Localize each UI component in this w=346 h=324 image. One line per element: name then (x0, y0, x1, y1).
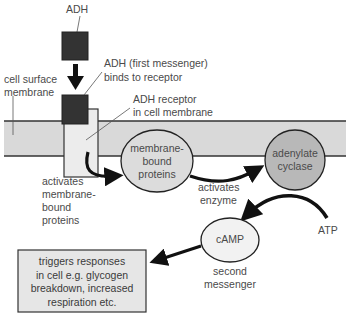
mbp-text-3: proteins (121, 168, 193, 181)
adh-pointer-line (77, 16, 80, 32)
label-atp: ATP (318, 224, 338, 237)
down-arrow-icon (67, 64, 84, 90)
adh-binds-pointer-line (84, 72, 102, 95)
cyclase-text-2: cyclase (265, 160, 325, 173)
label-receptor-1: ADH receptor (133, 93, 197, 106)
label-activates-mbp-3: bound (42, 201, 71, 214)
label-adh: ADH (66, 3, 88, 16)
label-receptor-2: in cell membrane (133, 106, 213, 119)
label-adh-binds-1: ADH (first messenger) (104, 57, 208, 70)
response-line-1: triggers responses (18, 255, 146, 269)
label-activates-mbp-1: activates (42, 175, 83, 188)
cyclase-text-1: adenylate (265, 147, 325, 160)
response-line-4: respiration etc. (18, 296, 146, 310)
label-cell-membrane-1: cell surface (4, 73, 57, 86)
adh-molecule-free (62, 32, 88, 60)
arrow-camp-to-response (158, 246, 201, 260)
label-adh-binds-2: binds to receptor (104, 71, 182, 84)
response-line-3: breakdown, increased (18, 282, 146, 296)
label-activates-enzyme-2: enzyme (200, 194, 237, 207)
adh-molecule-bound (62, 95, 88, 124)
camp-text: cAMP (201, 233, 259, 246)
arrow-mbp-to-cyclase (190, 170, 256, 181)
mbp-text-1: membrane- (121, 142, 193, 155)
response-box-text: triggers responses in cell e.g. glycogen… (18, 255, 146, 309)
label-activates-mbp-4: proteins (42, 214, 79, 227)
label-activates-enzyme-1: activates (198, 181, 239, 194)
label-second-messenger-1: second (200, 265, 260, 278)
label-second-messenger-2: messenger (200, 278, 260, 291)
mbp-text-2: bound (121, 155, 193, 168)
label-activates-mbp-2: membrane- (42, 188, 96, 201)
label-cell-membrane-2: membrane (4, 86, 54, 99)
arrow-atp-to-camp (248, 196, 327, 218)
response-line-2: in cell e.g. glycogen (18, 269, 146, 283)
